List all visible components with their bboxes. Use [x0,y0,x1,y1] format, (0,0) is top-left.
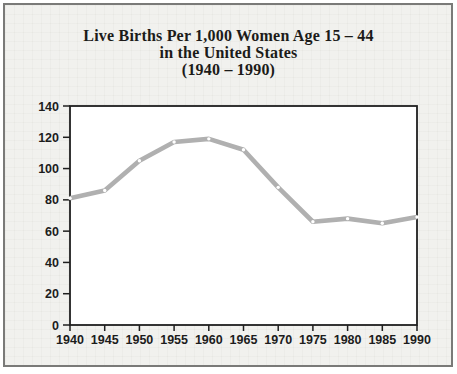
x-axis-label: 1945 [91,333,119,347]
x-axis-label: 1955 [160,333,188,347]
y-axis-label: 40 [45,256,59,270]
data-point [242,148,245,151]
y-axis-label: 60 [45,225,59,239]
data-point [207,137,210,140]
x-axis-label: 1965 [230,333,258,347]
data-point [68,197,71,200]
data-point [311,220,314,223]
x-axis-label: 1960 [195,333,223,347]
plot-area [70,106,417,325]
x-axis-label: 1940 [56,333,84,347]
x-axis-label: 1990 [403,333,431,347]
x-axis-label: 1980 [334,333,362,347]
y-axis-label: 120 [38,131,59,145]
y-axis-label: 140 [38,100,59,114]
x-axis-label: 1975 [299,333,327,347]
y-axis-label: 100 [38,162,59,176]
y-axis-label: 0 [52,319,59,333]
data-point [138,159,141,162]
data-point [346,217,349,220]
data-point [381,222,384,225]
data-point [277,186,280,189]
chart-figure: Live Births Per 1,000 Women Age 15 – 44 … [0,0,457,374]
data-point [103,189,106,192]
data-point [172,140,175,143]
y-axis-label: 20 [45,287,59,301]
chart-svg: 0204060801001201401940194519501955196019… [0,0,457,374]
x-axis-label: 1970 [264,333,292,347]
x-axis-label: 1985 [368,333,396,347]
x-axis-label: 1950 [125,333,153,347]
data-point [415,215,418,218]
y-axis-label: 80 [45,193,59,207]
